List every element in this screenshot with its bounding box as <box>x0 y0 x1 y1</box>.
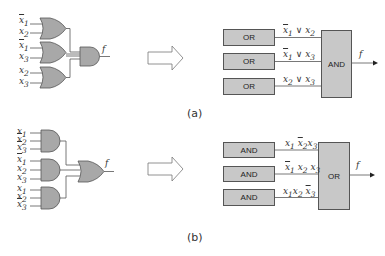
or-box-output: OR <box>318 142 350 210</box>
or-gate-a2 <box>40 42 66 63</box>
and-box-3: AND <box>223 189 275 206</box>
output-label-f: f <box>102 45 105 54</box>
and-gate-b1 <box>41 130 60 152</box>
expr-a2: x1 ∨ x3 <box>283 49 315 62</box>
expr-b3: x1x2 x3 <box>283 186 315 199</box>
expr-b1: x1 x2x3 <box>285 138 317 151</box>
expr-b2: x1 x2 x3 <box>285 162 320 175</box>
hollow-arrow-b <box>148 157 183 181</box>
and-gate-a-out <box>80 47 100 66</box>
input-label-x3bar: x3 <box>17 200 27 212</box>
and-box-1: AND <box>223 142 275 158</box>
expr-a1: x1 ∨ x2 <box>283 25 315 38</box>
and-gate-b3 <box>41 187 60 209</box>
caption-b: (b) <box>187 231 203 244</box>
and-box-output: AND <box>321 30 352 98</box>
hollow-arrow-a <box>148 46 183 70</box>
or-box-3: OR <box>223 78 275 95</box>
output-arrowhead-b <box>370 173 375 178</box>
or-box-1: OR <box>223 29 275 46</box>
and-box-2: AND <box>223 166 275 182</box>
block-output-label-f: f <box>356 161 359 170</box>
expr-a3: x2 ∨ x3 <box>283 74 315 87</box>
and-gate-b2 <box>41 159 60 181</box>
output-arrowhead-a <box>373 61 378 66</box>
or-gate-a1 <box>40 18 66 39</box>
caption-a: (a) <box>187 107 202 120</box>
block-output-label-f: f <box>359 50 362 59</box>
input-label-x3: x3 <box>19 77 29 89</box>
input-label-x3: x3 <box>19 52 29 64</box>
input-label-x2: x2 <box>19 27 29 39</box>
or-gate-b-out <box>78 161 104 182</box>
output-label-f: f <box>105 159 108 168</box>
or-gate-a3 <box>40 67 66 88</box>
circuit-a <box>30 18 110 88</box>
or-box-2: OR <box>223 53 275 70</box>
circuit-b <box>30 130 114 209</box>
